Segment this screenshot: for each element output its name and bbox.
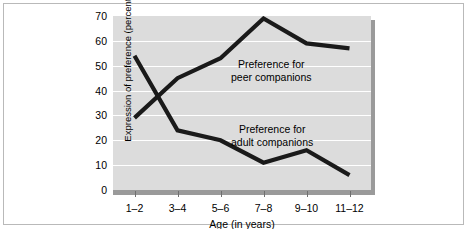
x-axis-tick: [350, 191, 351, 197]
x-axis-tick: [307, 191, 308, 197]
x-axis-tick-label: 7–8: [255, 202, 273, 214]
y-axis-tick-label: 30: [95, 109, 107, 121]
x-axis-title: Age (in years): [113, 218, 371, 229]
x-axis-tick: [178, 191, 179, 197]
x-axis-tick-label: 5–6: [212, 202, 230, 214]
x-axis-tick-label: 9–10: [295, 202, 318, 214]
plot-wrapper: Expression of preference (percent) 01020…: [113, 16, 371, 190]
y-axis-tick-label: 40: [95, 85, 107, 97]
y-axis-tick-label: 10: [95, 159, 107, 171]
series-annotation-adult-line1: Preference for: [231, 123, 313, 136]
x-axis-tick: [264, 191, 265, 197]
x-axis-tick-label: 11–12: [335, 202, 363, 214]
series-annotation-peer: Preference for peer companions: [231, 58, 312, 83]
y-axis-tick-label: 0: [101, 184, 107, 196]
x-axis-tick: [135, 191, 136, 197]
y-axis-tick-label: 70: [95, 10, 107, 22]
y-axis-title: Expression of preference (percent): [122, 0, 133, 159]
series-annotation-peer-line2: peer companions: [231, 71, 312, 84]
x-axis-bar: [113, 190, 375, 195]
plot-area: [113, 16, 371, 190]
series-annotation-adult-line2: adult companions: [231, 136, 313, 149]
series-annotation-peer-line1: Preference for: [231, 58, 312, 71]
y-axis-tick-label: 60: [95, 35, 107, 47]
series-lines: [113, 16, 371, 190]
series-annotation-adult: Preference for adult companions: [231, 123, 313, 148]
y-axis-tick-label: 50: [95, 60, 107, 72]
y-axis-tick-label: 20: [95, 134, 107, 146]
x-axis-tick-label: 1–2: [126, 202, 144, 214]
x-axis-tick-label: 3–4: [169, 202, 187, 214]
chart-figure: Expression of preference (percent) 01020…: [0, 0, 468, 229]
x-axis-tick: [221, 191, 222, 197]
